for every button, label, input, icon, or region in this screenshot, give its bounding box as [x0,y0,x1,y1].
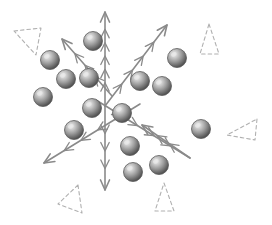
sphere-marker [41,51,60,70]
sphere-marker [121,137,140,156]
sphere-body [192,120,211,139]
sphere-body [84,32,103,51]
sphere-marker [113,104,132,123]
sphere-marker [153,77,172,96]
sphere-body [131,72,150,91]
sphere-body [34,88,53,107]
sphere-marker [57,70,76,89]
figure-container: Particle cluster with crossed feathered … [0,0,272,225]
sphere-body [168,49,187,68]
sphere-body [65,121,84,140]
figure-background [0,0,272,225]
sphere-body [80,69,99,88]
sphere-marker [65,121,84,140]
particle-axes-diagram [0,0,272,225]
sphere-marker [34,88,53,107]
sphere-marker [83,99,102,118]
sphere-body [121,137,140,156]
sphere-marker [80,69,99,88]
sphere-marker [192,120,211,139]
sphere-marker [124,163,143,182]
sphere-marker [84,32,103,51]
sphere-body [124,163,143,182]
sphere-body [57,70,76,89]
sphere-body [153,77,172,96]
sphere-body [83,99,102,118]
sphere-body [113,104,132,123]
sphere-marker [168,49,187,68]
sphere-body [150,156,169,175]
sphere-marker [131,72,150,91]
sphere-body [41,51,60,70]
sphere-marker [150,156,169,175]
